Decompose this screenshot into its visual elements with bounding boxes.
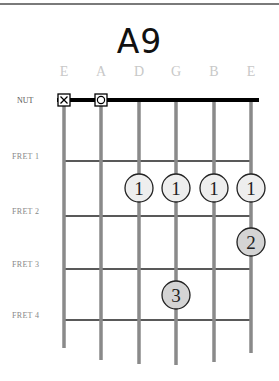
strings	[64, 100, 251, 365]
finger-dot-g-3: 3	[162, 281, 190, 309]
fretboard-diagram: 1 1 1 1 2 3	[0, 0, 279, 381]
svg-text:3: 3	[171, 285, 181, 306]
svg-text:1: 1	[134, 178, 144, 199]
svg-text:2: 2	[246, 232, 256, 253]
finger-dot-g-1: 1	[162, 174, 190, 202]
svg-text:1: 1	[246, 178, 256, 199]
finger-dot-b-1: 1	[200, 174, 228, 202]
finger-dot-e-2: 2	[237, 228, 265, 256]
finger-dot-d-1: 1	[125, 174, 153, 202]
finger-dot-e-1: 1	[237, 174, 265, 202]
muted-string-icon	[58, 94, 70, 106]
svg-text:1: 1	[209, 178, 219, 199]
open-string-icon	[95, 94, 107, 106]
svg-text:1: 1	[171, 178, 181, 199]
